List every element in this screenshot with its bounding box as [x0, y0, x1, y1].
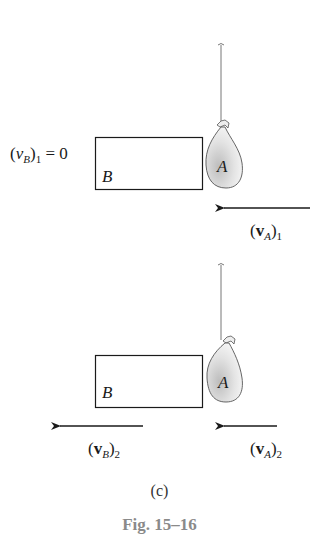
sub-a: A [264, 230, 271, 242]
equals-zero: = 0 [41, 144, 68, 163]
panel-bottom [60, 264, 277, 427]
sub-2: 2 [115, 448, 121, 460]
va1-label: (vA)1 [250, 222, 282, 242]
impact-diagram [0, 0, 319, 542]
sub-2: 2 [277, 448, 283, 460]
sub-b: B [23, 153, 30, 165]
sub-1: 1 [277, 230, 283, 242]
bag-a-bottom-label: A [218, 374, 228, 391]
var-v-bold: v [94, 439, 103, 458]
vb1-label: (vB)1 = 0 [10, 145, 68, 165]
sub-b: B [102, 448, 109, 460]
panel-label: (c) [0, 482, 319, 500]
bag-a-bottom [207, 336, 243, 402]
bag-a-top-label: A [217, 158, 227, 175]
var-v-bold: v [256, 439, 265, 458]
sub-a: A [264, 448, 271, 460]
va2-label: (vA)2 [250, 440, 282, 460]
panel-top [96, 44, 311, 209]
vb2-label: (vB)2 [88, 440, 120, 460]
figure-caption: Fig. 15–16 [0, 515, 319, 535]
bag-a-top [206, 120, 243, 188]
string-bottom [218, 264, 224, 341]
block-b-top-label: B [102, 168, 112, 185]
string-top [218, 44, 224, 123]
block-b-bottom-label: B [102, 384, 112, 401]
var-v-bold: v [256, 221, 265, 240]
